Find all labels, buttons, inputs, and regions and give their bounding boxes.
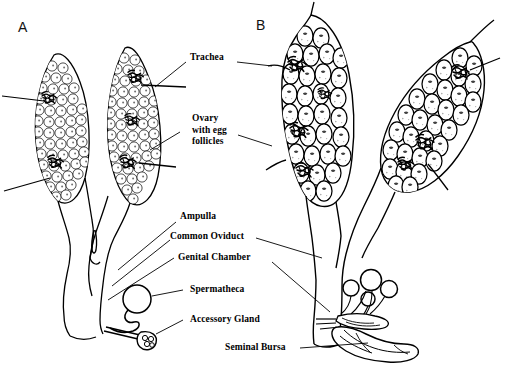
panel-a-left-ovary	[2, 54, 93, 316]
label-ampulla: Ampulla	[180, 211, 216, 223]
panel-a-spermatheca	[110, 285, 151, 332]
label-spermatheca: Spermatheca	[190, 284, 244, 296]
leader-trachea-a	[155, 62, 186, 87]
leader-trachea-b	[237, 62, 272, 66]
leader-genital-chamber-b	[272, 262, 330, 312]
panel-a-group	[2, 47, 186, 349]
panel-b-group	[266, 2, 500, 362]
panel-label-b: B	[256, 17, 265, 33]
leader-accessory-gland-a	[156, 320, 183, 334]
figure-canvas: A B Trachea Ovary with egg follicles Amp…	[0, 0, 505, 366]
leader-ampulla-a	[118, 222, 176, 270]
panel-label-a: A	[18, 19, 27, 35]
reproductive-system-drawing	[0, 0, 505, 366]
label-common-oviduct: Common Oviduct	[170, 231, 244, 243]
label-trachea: Trachea	[190, 52, 224, 64]
leader-ovary-b	[238, 135, 272, 146]
panel-b-accessory-gland	[316, 314, 388, 330]
panel-a-right-ovary	[89, 47, 186, 320]
label-seminal-bursa: Seminal Bursa	[225, 342, 286, 354]
label-ovary-line3: follicles	[192, 136, 227, 148]
label-genital-chamber: Genital Chamber	[178, 252, 250, 264]
label-ovary-with-egg-follicles: Ovary with egg follicles	[192, 113, 227, 148]
panel-b-left-follicles	[281, 26, 351, 201]
label-accessory-gland: Accessory Gland	[190, 314, 260, 326]
panel-b-right-ovary	[342, 20, 500, 286]
leader-spermatheca-a	[152, 290, 183, 296]
panel-a-accessory-gland	[104, 327, 156, 350]
panel-b-spermathecae	[341, 270, 398, 318]
label-ovary-line1: Ovary	[192, 113, 227, 125]
label-ovary-line2: with egg	[192, 125, 227, 137]
